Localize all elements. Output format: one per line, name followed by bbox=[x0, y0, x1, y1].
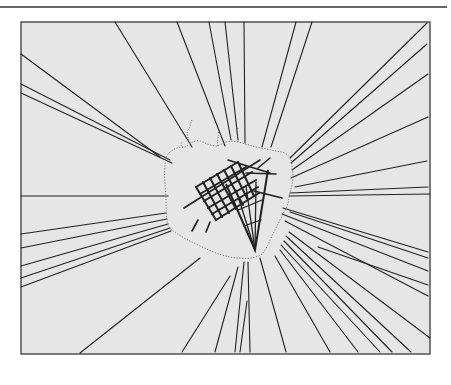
grid-street bbox=[246, 173, 276, 174]
radial-street-diagram bbox=[0, 0, 451, 385]
